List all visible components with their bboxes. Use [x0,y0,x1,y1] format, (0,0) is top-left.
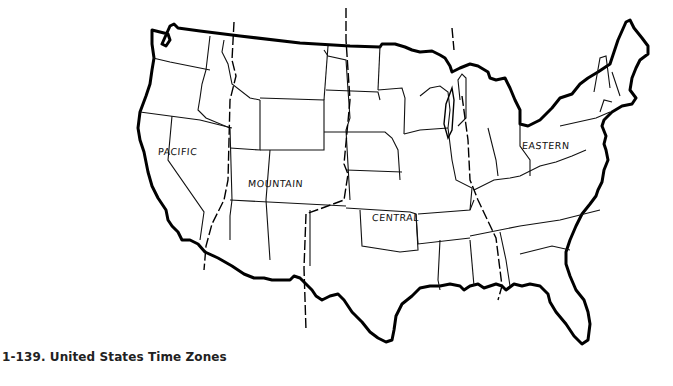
zone-label-pacific: PACIFIC [158,146,198,157]
time-zone-boundaries [204,8,502,330]
figure-caption: 1-139. United States Time Zones [2,350,227,364]
us-outline [138,20,648,344]
state-borders [140,36,620,290]
great-lakes [444,88,454,138]
us-time-zones-map [0,0,673,386]
zone-label-central: CENTRAL [372,212,420,223]
zone-label-mountain: MOUNTAIN [248,178,304,189]
zone-label-eastern: EASTERN [522,140,570,151]
